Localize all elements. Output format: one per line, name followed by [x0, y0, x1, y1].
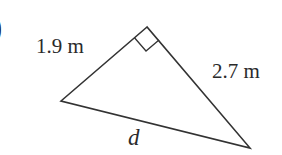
label-leg-short: 1.9 m	[36, 36, 84, 57]
label-leg-long: 2.7 m	[212, 61, 260, 82]
triangle-outline	[61, 27, 250, 148]
triangle-figure: ) 1.9 m 2.7 m d	[0, 0, 282, 155]
right-angle-marker	[135, 38, 160, 51]
label-hypotenuse: d	[128, 126, 140, 149]
